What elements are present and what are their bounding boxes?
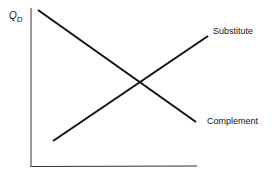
y-axis-label: QD	[9, 10, 23, 24]
y-axis-label-subscript: D	[17, 15, 23, 24]
y-axis-label-main: Q	[9, 10, 17, 21]
x-axis	[31, 166, 197, 167]
complement-label: Complement	[207, 116, 258, 126]
substitute-label: Substitute	[213, 26, 253, 36]
complement-line	[38, 10, 196, 122]
substitute-line	[53, 36, 208, 141]
